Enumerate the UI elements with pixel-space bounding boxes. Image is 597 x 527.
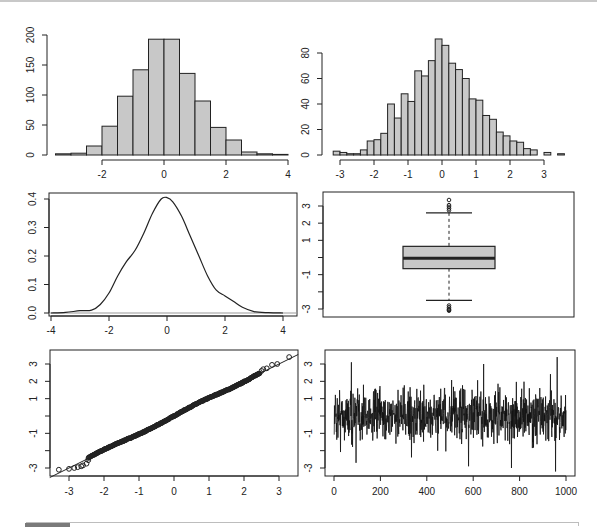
y-tick-label: 40 — [300, 98, 311, 110]
y-axis: 020406080 — [300, 47, 322, 158]
histogram-bar — [394, 118, 401, 155]
x-tick-label: 0 — [439, 169, 445, 180]
histogram-bar — [367, 141, 374, 155]
x-tick-label: 800 — [511, 486, 528, 497]
y-tick-label: 0 — [300, 152, 311, 158]
histogram-bar — [401, 94, 408, 155]
y-tick-label: 2 — [28, 378, 39, 384]
y-tick-label: 0.4 — [27, 192, 38, 206]
x-tick-label: -1 — [404, 169, 413, 180]
histogram-bar — [490, 119, 497, 155]
x-tick-label: -4 — [47, 325, 56, 336]
y-axis: 050100150200 — [25, 26, 47, 158]
plot-frame — [49, 193, 297, 316]
histogram-bar — [456, 70, 463, 155]
y-tick-label: 3 — [301, 203, 312, 209]
y-tick-label: 20 — [300, 124, 311, 136]
y-tick-label: -1 — [28, 428, 39, 437]
histogram-bar — [56, 154, 72, 155]
histogram-bar — [87, 146, 103, 155]
scrollbar-thumb[interactable] — [25, 523, 70, 527]
y-axis: 0.00.10.20.30.4 — [27, 192, 49, 320]
time-series-plot: 321-1-302004006008001000 — [303, 350, 578, 497]
y-axis: 321-1-3 — [301, 203, 323, 314]
histogram-bar — [149, 39, 165, 155]
histogram-bar — [273, 154, 289, 155]
y-tick-label: -3 — [28, 463, 39, 472]
histogram-bar — [462, 79, 469, 156]
qq-plot: 321-1-3-3-2-10123 — [28, 350, 298, 497]
y-tick-label: -3 — [301, 304, 312, 313]
histogram-coarse: 050100150200-2024 — [25, 26, 291, 180]
x-tick-label: 1 — [206, 486, 212, 497]
y-tick-label: 0.0 — [27, 306, 38, 320]
histogram-bar — [242, 152, 258, 155]
histogram-bar — [164, 39, 180, 155]
x-tick-label: 400 — [418, 486, 435, 497]
y-tick-label: 3 — [28, 361, 39, 367]
histogram-bar — [360, 150, 367, 155]
histogram-bar — [510, 141, 517, 155]
x-tick-label: 0 — [161, 169, 167, 180]
x-axis: -3-2-10123 — [336, 160, 548, 180]
y-tick-label: 3 — [303, 361, 314, 367]
x-tick-label: -3 — [336, 169, 345, 180]
histogram-bar — [442, 45, 449, 155]
y-axis: 321-1-3 — [303, 361, 325, 473]
histogram-bar — [483, 115, 490, 155]
histogram-bar — [517, 142, 524, 155]
histogram-bar — [524, 149, 531, 155]
boxplot: 321-1-3 — [301, 192, 574, 317]
histogram-bar — [374, 140, 381, 155]
x-tick-label: 1000 — [555, 486, 578, 497]
x-tick-label: 2 — [507, 169, 513, 180]
histogram-bar — [408, 101, 415, 155]
x-tick-label: 0 — [171, 486, 177, 497]
histogram-bar — [195, 101, 211, 155]
outlier-point — [447, 198, 451, 202]
histogram-bar — [226, 140, 242, 155]
density-plot: 0.00.10.20.30.4-4-2024 — [27, 192, 297, 336]
x-axis: -3-2-10123 — [65, 476, 283, 497]
bottom-scrollbar[interactable] — [26, 522, 579, 526]
x-axis: -2024 — [98, 160, 292, 180]
histogram-bar — [435, 39, 442, 155]
series-line — [334, 357, 566, 471]
y-tick-label: 0 — [25, 152, 36, 158]
histogram-bar — [118, 96, 134, 155]
histogram-bar — [333, 151, 340, 155]
y-tick-label: 50 — [25, 119, 36, 131]
x-tick-label: 4 — [280, 325, 286, 336]
histogram-bar — [530, 150, 537, 155]
y-tick-label: 1 — [28, 395, 39, 401]
histogram-bar — [503, 136, 510, 155]
x-tick-label: -2 — [100, 486, 109, 497]
histogram-bar — [180, 73, 196, 155]
y-tick-label: 2 — [301, 220, 312, 226]
x-tick-label: 1 — [473, 169, 479, 180]
histogram-bar — [428, 61, 435, 155]
histogram-bar — [257, 154, 273, 155]
y-tick-label: 0.1 — [27, 277, 38, 291]
y-tick-label: -1 — [303, 428, 314, 437]
y-tick-label: 150 — [25, 56, 36, 73]
histogram-bar — [133, 70, 149, 155]
histogram-bar — [381, 133, 388, 155]
histogram-bar — [415, 71, 422, 155]
y-tick-label: 200 — [25, 26, 36, 43]
histogram-bar — [102, 126, 118, 155]
x-tick-label: 2 — [241, 486, 247, 497]
y-tick-label: -1 — [301, 270, 312, 279]
histogram-bar — [211, 127, 227, 155]
histogram-bar — [496, 132, 503, 155]
x-tick-label: 4 — [285, 169, 291, 180]
x-axis: -4-2024 — [47, 316, 287, 336]
x-axis: 02004006008001000 — [331, 476, 577, 497]
histogram-bar — [558, 154, 565, 155]
histogram-bar — [340, 152, 347, 155]
x-tick-label: 3 — [541, 169, 547, 180]
histogram-bar — [347, 154, 354, 155]
histogram-bar — [388, 104, 395, 155]
histogram-bar — [469, 99, 476, 155]
